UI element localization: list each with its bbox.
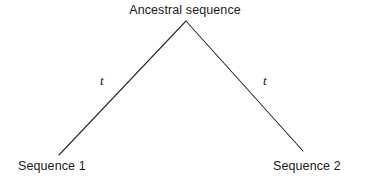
- figure-canvas: Ancestral sequence t t Sequence 1 Sequen…: [0, 0, 370, 181]
- left-branch-length-label: t: [100, 74, 104, 87]
- right-branch-line: [186, 21, 303, 151]
- ancestral-sequence-label: Ancestral sequence: [0, 3, 370, 17]
- sequence-2-label: Sequence 2: [273, 159, 341, 173]
- right-branch-length-label: t: [263, 74, 267, 87]
- left-branch-line: [59, 21, 186, 155]
- tree-branches-graphic: [0, 0, 370, 181]
- sequence-1-label: Sequence 1: [18, 159, 86, 173]
